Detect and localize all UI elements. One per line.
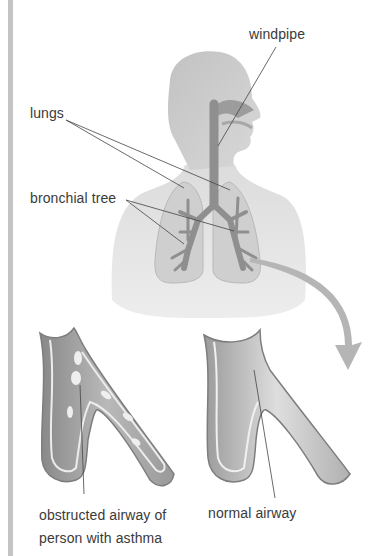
label-obstructed-airway-line1: obstructed airway of <box>39 505 166 525</box>
normal-airway-illustration <box>204 330 350 484</box>
label-windpipe: windpipe <box>249 24 305 44</box>
label-bronchial-tree: bronchial tree <box>30 188 116 208</box>
obstructed-airway-illustration <box>40 328 174 486</box>
respiratory-diagram <box>0 0 378 556</box>
label-obstructed-airway-line2: person with asthma <box>39 528 162 548</box>
label-lungs: lungs <box>30 103 64 123</box>
torso <box>112 165 306 318</box>
label-normal-airway: normal airway <box>208 503 296 523</box>
